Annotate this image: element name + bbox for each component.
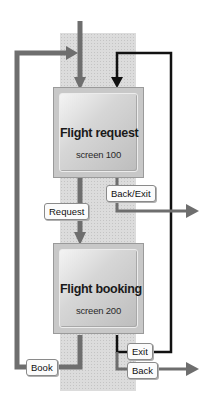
label-back-exit: Back/Exit [106, 185, 156, 202]
screen-title: Flight booking [60, 282, 137, 296]
entry-arrow [74, 21, 86, 90]
screen-flight-booking[interactable]: Flight booking screen 200 [53, 243, 144, 334]
label-back: Back [127, 362, 158, 379]
screen-face: Flight booking screen 200 [59, 249, 138, 328]
screen-title: Flight request [60, 126, 137, 140]
screen-flight-request[interactable]: Flight request screen 100 [53, 87, 144, 178]
screen-number: screen 100 [60, 149, 137, 160]
label-request: Request [44, 203, 89, 220]
flow-connectors [0, 0, 206, 407]
screen-face: Flight request screen 100 [59, 93, 138, 172]
label-book: Book [26, 359, 58, 376]
screen-number: screen 200 [60, 305, 137, 316]
label-exit: Exit [127, 343, 153, 360]
